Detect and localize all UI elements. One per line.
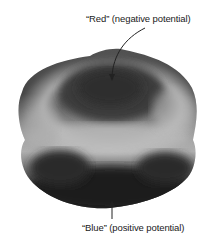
negative-potential-label: “Red” (negative potential) [86,13,191,24]
positive-potential-label: “Blue” (positive potential) [82,222,184,233]
potential-map-diagram [0,0,214,241]
molecule-surface [0,40,214,220]
